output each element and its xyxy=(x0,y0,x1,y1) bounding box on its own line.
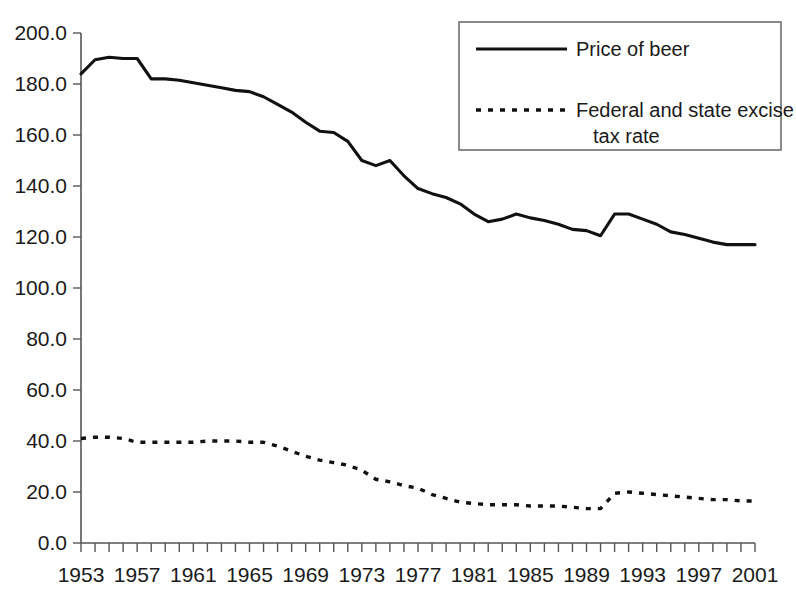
x-tick-label: 1977 xyxy=(395,563,442,586)
y-tick-label: 100.0 xyxy=(14,276,67,299)
y-tick-label: 200.0 xyxy=(14,21,67,44)
y-tick-label: 0.0 xyxy=(38,531,67,554)
x-tick-label: 1957 xyxy=(114,563,161,586)
x-tick-label: 1985 xyxy=(507,563,554,586)
x-tick-label: 1993 xyxy=(619,563,666,586)
line-chart: 0.020.040.060.080.0100.0120.0140.0160.01… xyxy=(0,0,796,606)
x-tick-label: 1973 xyxy=(338,563,385,586)
y-tick-label: 120.0 xyxy=(14,225,67,248)
x-tick-label: 2001 xyxy=(732,563,779,586)
x-tick-label: 1961 xyxy=(170,563,217,586)
legend-label-tax-rate: Federal and state excise xyxy=(576,99,794,121)
x-tick-label: 1965 xyxy=(226,563,273,586)
x-tick-label: 1997 xyxy=(675,563,722,586)
y-tick-label: 140.0 xyxy=(14,174,67,197)
y-tick-label: 60.0 xyxy=(26,378,67,401)
y-tick-label: 160.0 xyxy=(14,123,67,146)
y-tick-label: 80.0 xyxy=(26,327,67,350)
y-axis: 0.020.040.060.080.0100.0120.0140.0160.01… xyxy=(14,21,81,554)
chart-legend: Price of beerFederal and state excisetax… xyxy=(459,22,794,150)
x-tick-label: 1981 xyxy=(451,563,498,586)
y-tick-label: 20.0 xyxy=(26,480,67,503)
y-tick-label: 40.0 xyxy=(26,429,67,452)
x-tick-label: 1969 xyxy=(282,563,329,586)
legend-label-price-of-beer: Price of beer xyxy=(576,38,690,60)
x-tick-label: 1989 xyxy=(563,563,610,586)
x-axis: 1953195719611965196919731977198119851989… xyxy=(58,543,779,586)
legend-label-tax-rate-line2: tax rate xyxy=(593,125,660,147)
y-tick-label: 180.0 xyxy=(14,72,67,95)
series-line-tax-rate xyxy=(81,437,755,508)
x-tick-label: 1953 xyxy=(58,563,105,586)
chart-container: 0.020.040.060.080.0100.0120.0140.0160.01… xyxy=(0,0,796,606)
